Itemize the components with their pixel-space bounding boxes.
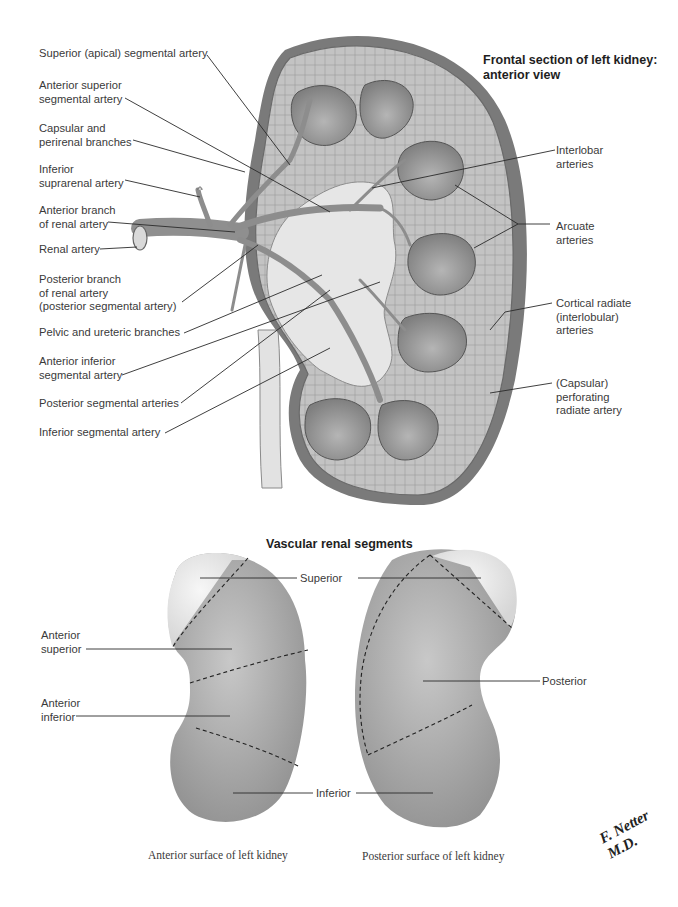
label-anterior-branch-renal-artery: Anterior branch of renal artery xyxy=(39,204,116,231)
label-inferior-suprarenal-artery: Inferior suprarenal artery xyxy=(39,163,124,190)
caption-anterior-surface: Anterior surface of left kidney xyxy=(148,849,288,861)
anatomy-plate: Frontal section of left kidney: anterior… xyxy=(0,0,678,907)
label-posterior-segmental-arteries: Posterior segmental arteries xyxy=(39,397,179,411)
caption-posterior-surface: Posterior surface of left kidney xyxy=(362,850,504,862)
label-pelvic-ureteric-branches: Pelvic and ureteric branches xyxy=(39,326,180,340)
label-arcuate-arteries: Arcuate arteries xyxy=(556,220,595,247)
label-inferior-segment: Inferior xyxy=(316,787,351,801)
label-renal-artery: Renal artery xyxy=(39,243,100,257)
kidney-frontal-section xyxy=(133,36,527,505)
label-posterior-branch-renal-artery: Posterior branch of renal artery (poster… xyxy=(39,273,176,314)
label-anterior-superior-segmental-artery: Anterior superior segmental artery xyxy=(39,79,122,106)
label-interlobar-arteries: Interlobar arteries xyxy=(556,144,603,171)
label-inferior-segmental-artery: Inferior segmental artery xyxy=(39,426,160,440)
kidney-posterior-surface xyxy=(355,549,517,827)
label-cortical-radiate-arteries: Cortical radiate (interlobular) arteries xyxy=(556,297,631,338)
kidney-anterior-surface xyxy=(167,553,308,822)
frontal-section-title: Frontal section of left kidney: anterior… xyxy=(483,53,657,83)
label-anterior-inferior-segment: Anterior inferior xyxy=(41,697,80,724)
vascular-segments-title: Vascular renal segments xyxy=(266,537,413,552)
label-superior-segment: Superior xyxy=(300,572,342,586)
label-anterior-superior-segment: Anterior superior xyxy=(41,629,81,656)
label-superior-apical-segmental-artery: Superior (apical) segmental artery xyxy=(39,47,208,61)
label-capsular-perirenal-branches: Capsular and perirenal branches xyxy=(39,122,132,149)
label-capsular-perforating-radiate-artery: (Capsular) perforating radiate artery xyxy=(556,377,622,418)
label-anterior-inferior-segmental-artery: Anterior inferior segmental artery xyxy=(39,355,122,382)
label-posterior-segment: Posterior xyxy=(542,675,587,689)
